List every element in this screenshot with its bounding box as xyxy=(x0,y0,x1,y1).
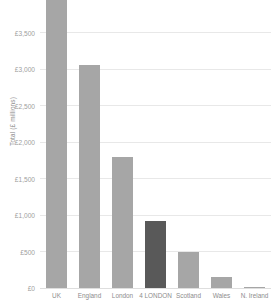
bar[interactable] xyxy=(145,221,166,288)
x-axis-tick-label: London xyxy=(106,292,139,299)
x-axis-tick-label: Scotland xyxy=(172,292,205,299)
y-axis-tick-label: £3,000 xyxy=(1,66,35,73)
bar-slot xyxy=(112,0,133,288)
x-axis-tick-label: N. Ireland xyxy=(238,292,271,299)
bar-chart: Total (£ millions) £0£500£1,000£1,500£2,… xyxy=(0,0,273,308)
bar[interactable] xyxy=(211,277,232,288)
bar[interactable] xyxy=(244,287,265,288)
bars-layer xyxy=(40,0,271,288)
y-axis-tick-label: £3,500 xyxy=(1,29,35,36)
bar[interactable] xyxy=(46,0,67,288)
y-axis-tick-label: £2,500 xyxy=(1,102,35,109)
x-axis-tick-label: UK xyxy=(40,292,73,299)
x-axis-tick-label: England xyxy=(73,292,106,299)
y-axis-tick-label: £1,500 xyxy=(1,175,35,182)
y-axis-tick-label: £0 xyxy=(1,285,35,292)
x-axis-labels: UKEnglandLondon4 LONDONScotlandWalesN. I… xyxy=(40,290,271,308)
bar-slot xyxy=(211,0,232,288)
x-axis-tick-label: 4 LONDON xyxy=(139,292,172,299)
bar-slot xyxy=(79,0,100,288)
bar[interactable] xyxy=(178,252,199,288)
bar[interactable] xyxy=(79,65,100,288)
bar-slot xyxy=(178,0,199,288)
bar-slot xyxy=(145,0,166,288)
y-axis-tick-label: £1,000 xyxy=(1,212,35,219)
x-axis-tick-label: Wales xyxy=(205,292,238,299)
y-axis-title: Total (£ millions) xyxy=(9,77,16,167)
y-axis-tick-label: £500 xyxy=(1,248,35,255)
bar-slot xyxy=(46,0,67,288)
bar-slot xyxy=(244,0,265,288)
y-axis-tick-label: £2,000 xyxy=(1,139,35,146)
bar[interactable] xyxy=(112,157,133,288)
